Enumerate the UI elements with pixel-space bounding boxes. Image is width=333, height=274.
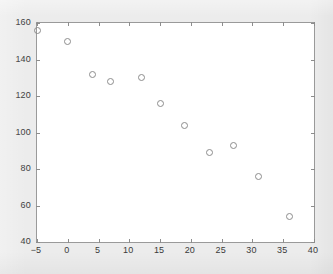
x-axis-tick <box>160 239 161 243</box>
y-axis-tick <box>311 96 315 97</box>
x-tick-label: 35 <box>277 245 287 255</box>
y-axis-tick <box>36 169 40 170</box>
x-tick-label: −5 <box>31 245 42 255</box>
x-axis-tick <box>68 239 69 243</box>
y-axis-tick <box>36 133 40 134</box>
y-axis-tick <box>311 23 315 24</box>
x-axis-tick <box>252 239 253 243</box>
scatter-point <box>34 27 41 34</box>
x-axis-tick <box>283 22 284 26</box>
x-axis-tick <box>129 22 130 26</box>
y-axis-tick <box>311 60 315 61</box>
plot-area <box>36 22 315 243</box>
x-tick-label: 5 <box>95 245 100 255</box>
scatter-point <box>255 173 262 180</box>
y-axis-tick <box>36 23 40 24</box>
y-tick-label: 80 <box>21 163 31 173</box>
x-tick-label: 30 <box>246 245 256 255</box>
x-axis-tick <box>222 22 223 26</box>
x-axis-tick <box>160 22 161 26</box>
x-axis-tick <box>99 22 100 26</box>
x-axis-tick <box>191 22 192 26</box>
scatter-point <box>230 142 237 149</box>
x-axis-tick <box>283 239 284 243</box>
y-axis-tick <box>36 242 40 243</box>
scatter-point <box>206 149 213 156</box>
y-tick-label: 100 <box>15 127 31 137</box>
x-tick-label: 20 <box>185 245 195 255</box>
x-axis-tick <box>99 239 100 243</box>
y-tick-label: 120 <box>15 90 31 100</box>
x-axis-tick <box>252 22 253 26</box>
x-tick-label: 10 <box>123 245 133 255</box>
y-axis-tick <box>311 133 315 134</box>
scatter-point <box>181 122 188 129</box>
scatter-point <box>286 213 293 220</box>
scatter-point <box>157 100 164 107</box>
y-tick-label: 40 <box>21 236 31 246</box>
x-axis-tick <box>191 239 192 243</box>
x-axis-tick <box>68 22 69 26</box>
y-axis-tick <box>311 206 315 207</box>
x-tick-label: 25 <box>215 245 225 255</box>
y-axis-tick <box>311 169 315 170</box>
scatter-point <box>107 78 114 85</box>
x-tick-label: 0 <box>64 245 69 255</box>
x-tick-label: 40 <box>308 245 318 255</box>
scatter-point <box>138 74 145 81</box>
y-tick-label: 160 <box>15 17 31 27</box>
x-axis-tick <box>129 239 130 243</box>
y-tick-label: 140 <box>15 54 31 64</box>
figure-canvas: 406080100120140160 −50510152025303540 <box>0 0 333 274</box>
x-tick-label: 15 <box>154 245 164 255</box>
y-axis-tick <box>36 60 40 61</box>
scatter-point <box>64 38 71 45</box>
y-axis-tick <box>36 96 40 97</box>
scatter-point <box>89 71 96 78</box>
y-axis-tick <box>311 242 315 243</box>
y-tick-label: 60 <box>21 200 31 210</box>
x-axis-tick <box>222 239 223 243</box>
y-axis-tick <box>36 206 40 207</box>
